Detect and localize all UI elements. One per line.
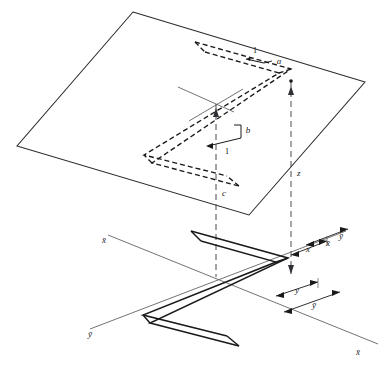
projection-label-z: z	[296, 168, 301, 178]
dimension-label-x-bar: x̄	[325, 238, 331, 248]
dimension-y-arrow-left	[276, 292, 284, 298]
upper-dashed-zigzag-outer	[152, 42, 291, 186]
lower-solid-zigzag-outer	[150, 231, 288, 346]
upper-dashed-cap-end	[227, 176, 239, 186]
axis-label-xbar-upper-left-text: x̄	[101, 235, 107, 245]
upper-label-segment-bottom: 1	[225, 146, 230, 156]
axis-xbar-line	[108, 235, 378, 344]
dimension-y-arrow-right	[310, 280, 318, 286]
dimension-ybar-arrow-right	[332, 290, 340, 296]
dimension-b-arrow	[206, 143, 213, 149]
upper-label-segment-top: 1	[253, 45, 258, 55]
upper-plane-parallelogram	[17, 12, 365, 215]
axis-label-ybar-lower-left: ȳ	[87, 329, 93, 339]
dimension-b-group	[206, 125, 241, 149]
upper-label-offset-a: a	[277, 56, 282, 66]
projection-line-z-top-dot	[289, 79, 293, 83]
axis-label-xbar-lower-right-text: x̄	[355, 347, 361, 357]
upper-small-axis-cross	[178, 87, 243, 121]
projection-label-c: c	[222, 188, 226, 198]
axis-label-xbar-lower-right: x̄	[355, 347, 361, 357]
axis-label-xbar-upper-left: x̄	[101, 235, 107, 245]
diagram-canvas: x̄ x̄ ȳ ȳ x x̄ y ȳ 1 a b 1 c z	[0, 0, 389, 366]
dimension-ybar-arrow-left	[284, 308, 292, 314]
lower-axes-group	[90, 231, 378, 344]
upper-dashed-zigzag-inner	[144, 52, 279, 176]
dimension-label-y-bar: ȳ	[311, 300, 317, 310]
projection-line-z-up-arrow	[288, 86, 294, 95]
dimension-y-group	[276, 278, 340, 314]
dimension-label-x: x	[305, 244, 310, 254]
upper-plane-group	[17, 12, 365, 215]
upper-label-offset-b: b	[246, 125, 251, 135]
lower-solid-zigzag-inner	[143, 241, 276, 336]
technical-diagram-figure: x̄ x̄ ȳ ȳ x x̄ y ȳ 1 a b 1 c z	[0, 0, 389, 366]
axis-label-ybar-lower-left-text: ȳ	[87, 329, 93, 339]
upper-dashed-cap-start	[195, 42, 205, 52]
dimension-label-y: y	[294, 285, 299, 295]
projection-line-z-arrow	[288, 265, 294, 274]
